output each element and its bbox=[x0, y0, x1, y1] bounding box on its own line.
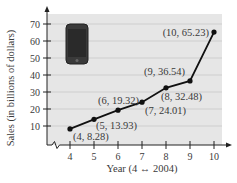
smartphone-icon bbox=[66, 24, 88, 64]
y-tick-label: 40 bbox=[30, 70, 40, 81]
point-label: (7, 24.01) bbox=[145, 105, 187, 117]
y-axis-arrow-icon bbox=[45, 6, 50, 12]
data-point bbox=[67, 126, 72, 131]
y-tick-label: 20 bbox=[30, 104, 40, 115]
x-tick-label: 8 bbox=[164, 151, 169, 162]
data-point bbox=[187, 78, 192, 83]
x-tick-label: 5 bbox=[92, 151, 97, 162]
point-label: (10, 65.23) bbox=[163, 27, 210, 39]
x-axis-arrow-icon bbox=[226, 143, 232, 148]
x-tick-label: 9 bbox=[188, 151, 193, 162]
x-tick-label: 6 bbox=[116, 151, 121, 162]
x-tick-label: 10 bbox=[209, 151, 219, 162]
point-label: (9, 36.54) bbox=[144, 66, 186, 78]
x-axis-label: Year (4 ↔ 2004) bbox=[107, 163, 178, 175]
data-point bbox=[211, 30, 216, 35]
y-tick-label: 50 bbox=[30, 53, 40, 64]
x-tick-label: 7 bbox=[140, 151, 145, 162]
line-chart: 1020304050607045678910 (4, 8.28)(5, 13.9… bbox=[0, 0, 237, 183]
y-tick-label: 30 bbox=[30, 87, 40, 98]
data-point bbox=[139, 100, 144, 105]
y-tick-label: 10 bbox=[30, 121, 40, 132]
y-tick-label: 60 bbox=[30, 36, 40, 47]
point-label: (8, 32.48) bbox=[161, 91, 203, 103]
point-label: (5, 13.93) bbox=[96, 120, 138, 132]
data-point bbox=[115, 108, 120, 113]
point-label: (4, 8.28) bbox=[73, 131, 109, 143]
y-tick-label: 70 bbox=[30, 19, 40, 30]
y-axis-label: Sales (in billions of dollars) bbox=[5, 29, 17, 146]
point-label: (6, 19.32) bbox=[98, 95, 140, 107]
data-point bbox=[163, 85, 168, 90]
x-tick-label: 4 bbox=[68, 151, 73, 162]
